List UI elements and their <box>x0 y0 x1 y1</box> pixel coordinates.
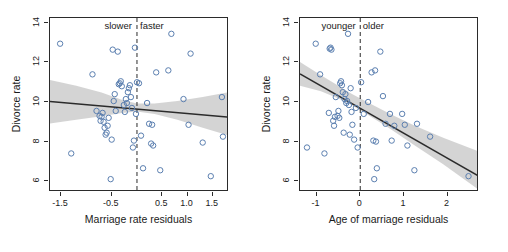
y-tick-label: 6 <box>32 178 41 183</box>
x-tick-label: -1.5 <box>52 199 68 208</box>
y-tick-label: 14 <box>282 17 291 27</box>
data-point <box>313 41 318 46</box>
regression-line <box>300 74 478 176</box>
data-point <box>345 31 350 36</box>
x-tick <box>161 192 162 196</box>
data-point <box>412 168 417 173</box>
x-tick <box>111 192 112 196</box>
y-tick <box>44 101 48 102</box>
group-label-older: older <box>363 20 384 31</box>
x-tick <box>212 192 213 196</box>
plot-canvas <box>50 18 228 191</box>
data-point <box>158 168 163 173</box>
data-point <box>347 132 352 137</box>
data-point <box>153 70 158 75</box>
y-axis-title-left: Divorce rate <box>10 76 22 133</box>
y-axis-title-right: Divorce rate <box>260 76 272 133</box>
group-label-younger: younger <box>321 20 355 31</box>
confidence-band <box>300 62 478 190</box>
y-tick-label: 8 <box>32 138 41 143</box>
x-tick <box>403 192 404 196</box>
data-point <box>399 111 404 116</box>
y-tick-label: 12 <box>282 56 291 66</box>
y-tick <box>44 22 48 23</box>
data-point <box>128 94 133 99</box>
x-axis-title-right: Age of marriage residuals <box>329 213 449 225</box>
data-point <box>405 143 410 148</box>
y-tick-label: 14 <box>32 17 41 27</box>
data-point <box>374 166 379 171</box>
data-point <box>220 134 225 139</box>
group-label-faster: faster <box>140 20 164 31</box>
data-point <box>115 49 120 54</box>
data-point <box>304 145 309 150</box>
x-tick <box>359 192 360 196</box>
y-tick-label: 12 <box>32 56 41 66</box>
data-point <box>326 110 331 115</box>
data-point <box>133 111 138 116</box>
x-tick <box>447 192 448 196</box>
x-tick-label: 1.5 <box>206 199 219 208</box>
data-point <box>350 122 355 127</box>
data-point <box>200 140 205 145</box>
data-point <box>389 138 394 143</box>
data-point <box>380 93 385 98</box>
data-point <box>169 31 174 36</box>
y-tick <box>294 180 298 181</box>
plot-area-right <box>300 18 477 190</box>
y-tick <box>44 141 48 142</box>
confidence-band <box>50 80 228 136</box>
data-point <box>208 173 213 178</box>
y-tick <box>294 61 298 62</box>
data-point <box>140 166 145 171</box>
data-point <box>349 109 354 114</box>
plot-frame-left <box>49 17 228 191</box>
data-point <box>322 151 327 156</box>
y-tick <box>294 22 298 23</box>
data-point <box>90 72 95 77</box>
figure-root: -1.5-0.50.51.01.568101214 Marriage rate … <box>0 0 508 252</box>
x-tick-label: -1 <box>312 199 320 208</box>
y-tick <box>294 141 298 142</box>
data-point <box>341 130 346 135</box>
panel-age-of-marriage: -101268101214 Age of marriage residuals … <box>254 0 508 252</box>
data-point <box>108 176 113 181</box>
y-tick-label: 10 <box>32 96 41 106</box>
plot-frame-right <box>299 17 478 191</box>
group-label-slower: slower <box>104 20 131 31</box>
x-tick-label: -0.5 <box>103 199 119 208</box>
y-tick <box>44 61 48 62</box>
data-point <box>166 68 171 73</box>
x-tick-label: 0 <box>357 199 362 208</box>
data-point <box>138 133 143 138</box>
data-point <box>348 85 353 90</box>
data-point <box>351 137 356 142</box>
x-tick-label: 2 <box>444 199 449 208</box>
data-point <box>69 151 74 156</box>
x-tick-label: 1 <box>400 199 405 208</box>
data-point <box>106 115 111 120</box>
plot-canvas <box>300 18 478 191</box>
y-tick-label: 8 <box>282 138 291 143</box>
y-tick <box>44 180 48 181</box>
y-tick-label: 10 <box>282 96 291 106</box>
x-tick <box>187 192 188 196</box>
x-tick <box>316 192 317 196</box>
data-point <box>358 80 363 85</box>
data-point <box>131 138 136 143</box>
data-point <box>188 51 193 56</box>
data-point <box>372 176 377 181</box>
data-point <box>355 145 360 150</box>
data-point <box>414 121 419 126</box>
y-tick-label: 6 <box>282 178 291 183</box>
data-point <box>112 91 117 96</box>
x-axis-title-left: Marriage rate residuals <box>85 213 192 225</box>
data-point <box>378 49 383 54</box>
panel-marriage-rate: -1.5-0.50.51.01.568101214 Marriage rate … <box>0 0 254 252</box>
data-point <box>130 145 135 150</box>
x-tick <box>60 192 61 196</box>
plot-area-left <box>50 18 227 190</box>
x-tick-label: 0.5 <box>155 199 168 208</box>
y-tick <box>294 101 298 102</box>
x-tick-label: 1.0 <box>180 199 193 208</box>
